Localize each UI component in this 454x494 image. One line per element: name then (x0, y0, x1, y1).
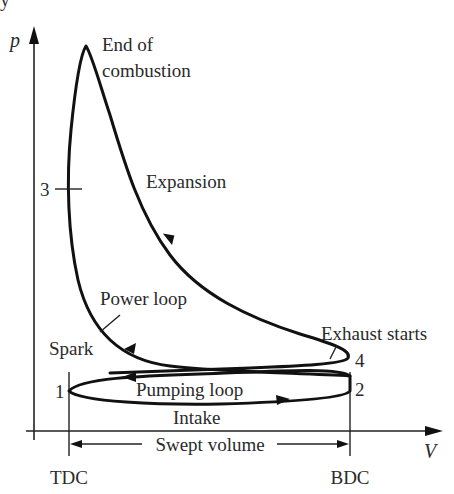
spark-label: Spark (49, 338, 94, 359)
spark-tick (100, 315, 120, 332)
p-axis (29, 26, 39, 440)
point-4-label: 4 (355, 350, 365, 371)
power-loop-curve (68, 46, 350, 376)
exhaust-starts-tick (330, 345, 337, 359)
pv-diagram: p V Swept volume TDC BDC 3 1 4 2 End of … (0, 0, 454, 494)
bdc-label: BDC (330, 467, 369, 488)
point-2-label: 2 (355, 379, 365, 400)
expansion-label: Expansion (146, 171, 227, 192)
intake-label: Intake (173, 407, 220, 428)
v-axis-label: V (424, 440, 439, 462)
point-3-label: 3 (40, 179, 50, 200)
expansion-arrow-icon (163, 232, 176, 247)
pumping-loop-label: Pumping loop (136, 379, 243, 400)
swept-volume-label: Swept volume (155, 434, 264, 455)
point-1-label: 1 (55, 381, 65, 402)
exhaust-starts-label: Exhaust starts (321, 323, 427, 344)
end-of-combustion-label-line1: End of (102, 34, 154, 55)
end-of-combustion-label-line2: combustion (102, 60, 191, 81)
p-axis-label: p (8, 29, 20, 52)
power-loop-label: Power loop (100, 288, 187, 309)
tdc-label: TDC (50, 467, 88, 488)
